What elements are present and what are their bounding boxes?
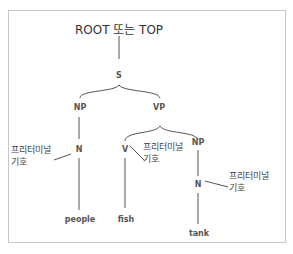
word-tank: tank bbox=[189, 229, 209, 238]
brace-vp bbox=[125, 126, 198, 141]
pointer-n-subject bbox=[54, 154, 71, 160]
node-np-subject: NP bbox=[74, 103, 87, 112]
word-fish: fish bbox=[118, 215, 134, 224]
node-v: V bbox=[122, 145, 128, 154]
annotation-line1: 프리터미널 bbox=[229, 170, 269, 182]
word-people: people bbox=[65, 215, 96, 224]
pointer-n-object bbox=[205, 181, 228, 187]
annotation-n-object: 프리터미널 기호 bbox=[229, 170, 269, 194]
pointer-v bbox=[130, 146, 144, 160]
annotation-line1: 프리터미널 bbox=[143, 141, 183, 153]
brace-s bbox=[80, 85, 160, 98]
node-n-subject: N bbox=[76, 145, 83, 154]
annotation-v: 프리터미널 기호 bbox=[143, 141, 183, 165]
root-label: ROOT 또는 TOP bbox=[75, 20, 163, 37]
tree-edges bbox=[0, 0, 293, 254]
annotation-line2: 기호 bbox=[143, 153, 183, 165]
node-np-object: NP bbox=[192, 138, 205, 147]
node-n-object: N bbox=[195, 180, 202, 189]
node-s: S bbox=[116, 71, 122, 80]
annotation-line2: 기호 bbox=[229, 182, 269, 194]
annotation-line1: 프리터미널 bbox=[11, 144, 51, 156]
annotation-n-subject: 프리터미널 기호 bbox=[11, 144, 51, 168]
node-vp: VP bbox=[153, 103, 165, 112]
annotation-line2: 기호 bbox=[11, 156, 51, 168]
